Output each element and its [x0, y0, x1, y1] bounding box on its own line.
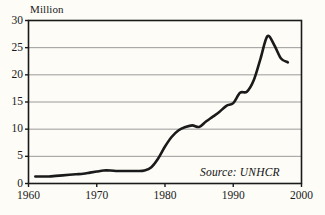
x-axis-tick-label: 1960: [9, 189, 49, 201]
x-axis-tick-label: 1970: [77, 189, 117, 201]
y-axis-tick-label: 5: [1, 149, 23, 161]
data-series-line: [35, 36, 288, 177]
y-axis-tick-label: 25: [1, 41, 23, 53]
y-axis-tick-label: 20: [1, 68, 23, 80]
refugee-population-chart: Million Source: UNHCR 051015202530196019…: [0, 0, 325, 215]
plot-area: [0, 0, 325, 215]
y-axis-tick-label: 15: [1, 95, 23, 107]
x-axis-tick-label: 1980: [145, 189, 185, 201]
x-axis-tick-label: 2000: [282, 189, 322, 201]
y-axis-tick-label: 30: [1, 14, 23, 26]
source-annotation: Source: UNHCR: [200, 166, 280, 178]
y-axis-tick-label: 0: [1, 177, 23, 189]
y-axis-tick-label: 10: [1, 122, 23, 134]
x-axis-tick-label: 1990: [213, 189, 253, 201]
